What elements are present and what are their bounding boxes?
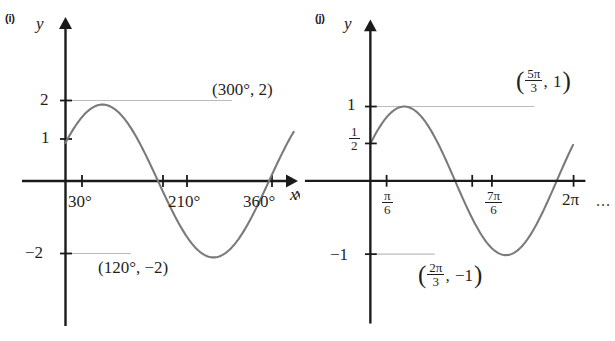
pi-over-6-denominator: 6 xyxy=(382,203,393,216)
half-fraction: 1 2 xyxy=(349,125,360,153)
pi-over-6-numerator: π xyxy=(382,189,393,203)
pi-over-6-fraction: π 6 xyxy=(382,189,393,217)
graph-i-curve-overlay xyxy=(0,0,310,341)
min-fraction-denominator: 3 xyxy=(427,275,444,288)
x-tick-label-360-i: 360° xyxy=(243,192,275,212)
x-tick-label-2pi: 2π xyxy=(562,190,579,210)
min-value: −1 xyxy=(455,266,473,286)
x-axis-label-j: x xyxy=(290,185,298,205)
x-tick-label-30-i: 30° xyxy=(68,192,92,212)
max-paren-close: ) xyxy=(562,68,570,93)
min-point-label-i: (120°, −2) xyxy=(98,258,168,278)
y-tick-label-neg2-i: −2 xyxy=(25,243,43,263)
min-comma: , xyxy=(445,266,454,286)
max-fraction-denominator: 3 xyxy=(525,81,542,94)
seven-pi-over-6-denominator: 6 xyxy=(485,203,502,216)
max-paren-open: ( xyxy=(516,68,524,93)
x-tick-label-pi-over-6: π 6 xyxy=(382,190,393,218)
min-fraction-numerator: 2π xyxy=(427,261,444,275)
x-tick-label-210-i: 210° xyxy=(168,192,200,212)
y-tick-label-1-j: 1 xyxy=(347,95,356,115)
x-tick-label-7pi-over-6: 7π 6 xyxy=(485,190,502,218)
min-paren-close: ) xyxy=(474,262,482,287)
panel-tag-i: (i) xyxy=(5,12,15,24)
sine-curve-i-precise xyxy=(66,105,294,258)
figure-canvas: (i) y x 2 1 −2 30° 210° 360° (300°, 2) (… xyxy=(0,0,615,341)
half-denominator: 2 xyxy=(349,139,360,152)
min-point-label-j: ( 2π 3 , −1 ) xyxy=(418,262,482,290)
y-tick-label-1-i: 1 xyxy=(41,128,50,148)
max-value: 1 xyxy=(553,72,562,92)
max-comma: , xyxy=(543,72,552,92)
half-numerator: 1 xyxy=(349,125,360,139)
min-paren-open: ( xyxy=(418,262,426,287)
graph-panel-i: (i) y x 2 1 −2 30° 210° 360° (300°, 2) (… xyxy=(0,0,310,341)
panel-tag-j: (j) xyxy=(315,12,325,24)
seven-pi-over-6-fraction: 7π 6 xyxy=(485,189,502,217)
graph-j-curve-overlay xyxy=(300,0,610,341)
trailing-ellipsis: ... xyxy=(596,192,611,210)
y-axis-label-j: y xyxy=(344,14,352,34)
max-fraction: 5π 3 xyxy=(525,67,542,95)
max-point-label-j: ( 5π 3 , 1 ) xyxy=(516,68,571,96)
graph-panel-j: (j) y x 1 1 2 −1 π 6 7π 6 2π ( xyxy=(300,0,610,341)
max-fraction-numerator: 5π xyxy=(525,67,542,81)
y-tick-label-half-j: 1 2 xyxy=(349,126,360,154)
y-axis-label-i: y xyxy=(36,14,44,34)
y-tick-label-2-i: 2 xyxy=(40,90,49,110)
max-point-label-i: (300°, 2) xyxy=(212,80,273,100)
y-tick-label-neg1-j: −1 xyxy=(330,245,348,265)
seven-pi-over-6-numerator: 7π xyxy=(485,189,502,203)
min-fraction: 2π 3 xyxy=(427,261,444,289)
